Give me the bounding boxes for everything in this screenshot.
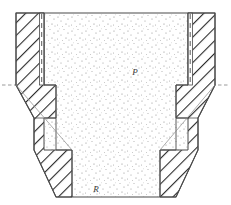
narrow-vertical-channel-left [40,13,45,85]
narrow-vertical-channel-right [188,13,193,85]
label-pressure: P [131,67,138,77]
label-radius: R [92,184,99,194]
cross-section-diagram: P R [0,0,231,205]
technical-drawing-figure: P R [0,0,231,205]
